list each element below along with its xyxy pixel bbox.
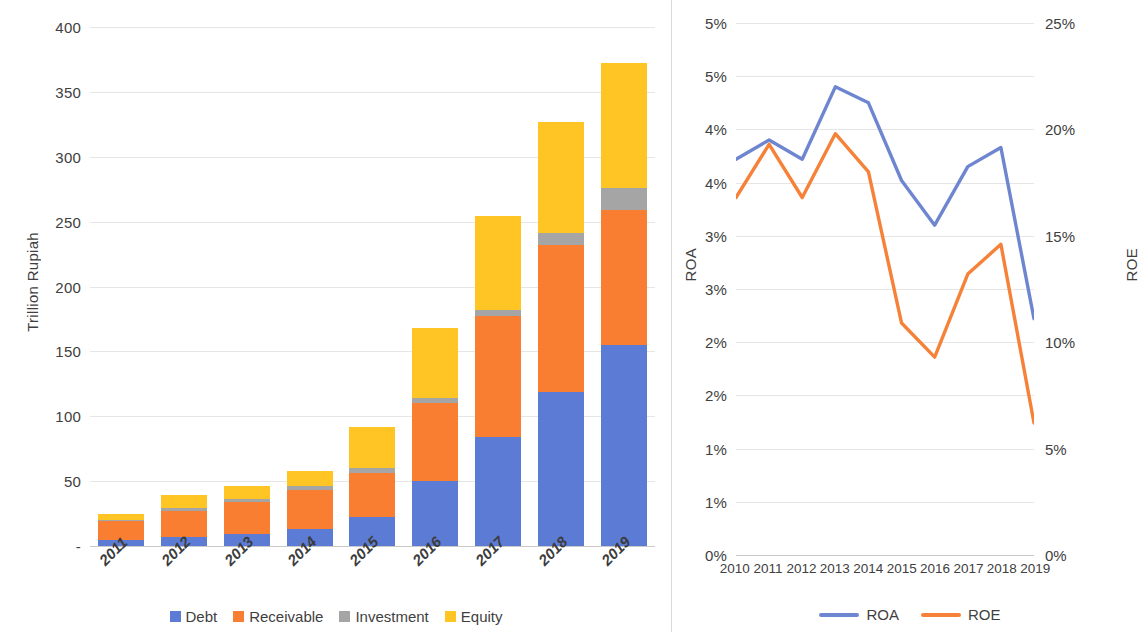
legend-item-investment[interactable]: Investment <box>339 608 428 625</box>
bar-segment-equity[interactable] <box>349 427 395 469</box>
roe-tick-label: 15% <box>1034 227 1075 244</box>
x-axis-label: 2019 <box>1019 561 1052 576</box>
roa-tick-label: 1% <box>705 440 736 457</box>
roe-axis-title: ROE <box>1123 248 1140 281</box>
y-axis-tick-label: 200 <box>55 278 90 295</box>
y-axis-tick-label: 100 <box>55 408 90 425</box>
x-axis-label: 2012 <box>785 561 818 576</box>
dual-chart-figure: Trillion Rupiah -50100150200250300350400… <box>0 0 1148 632</box>
bar-group[interactable] <box>98 27 144 546</box>
legend-label: ROE <box>968 606 1001 623</box>
y-axis-tick-label: 350 <box>55 83 90 100</box>
x-axis-label: 2014 <box>852 561 885 576</box>
bar-segment-debt[interactable] <box>475 437 521 546</box>
roe-tick-label: 5% <box>1034 440 1067 457</box>
roa-tick-label: 3% <box>705 281 736 298</box>
bar-plot-area: -50100150200250300350400 <box>90 27 655 546</box>
x-axis-label: 2010 <box>718 561 751 576</box>
legend-line-icon <box>921 613 961 617</box>
legend-item-roe[interactable]: ROE <box>921 606 1001 623</box>
bar-group[interactable] <box>287 27 333 546</box>
legend-label: Receivable <box>249 608 323 625</box>
bar-segment-receivable[interactable] <box>224 502 270 534</box>
x-axis-label: 2013 <box>818 561 851 576</box>
x-axis-label: 2015 <box>885 561 918 576</box>
line-plot-area: 0%1%1%2%2%3%3%4%4%5%5% 0%5%10%15%20%25% <box>736 23 1034 555</box>
roe-tick-label: 20% <box>1034 121 1075 138</box>
roa-tick-label: 5% <box>705 68 736 85</box>
bar-legend: DebtReceivableInvestmentEquity <box>0 608 672 625</box>
legend-swatch-icon <box>445 611 456 622</box>
legend-label: Equity <box>461 608 503 625</box>
legend-label: Debt <box>186 608 218 625</box>
bar-group[interactable] <box>224 27 270 546</box>
legend-swatch-icon <box>233 611 244 622</box>
y-axis-tick-label: 300 <box>55 148 90 165</box>
bar-segment-receivable[interactable] <box>412 403 458 481</box>
stacked-bar-chart-panel: Trillion Rupiah -50100150200250300350400… <box>0 0 672 632</box>
y-axis-tick-label: 50 <box>64 473 90 490</box>
line-series-roe[interactable] <box>736 134 1034 423</box>
bar-segment-investment[interactable] <box>538 233 584 245</box>
y-axis-tick-label: 150 <box>55 343 90 360</box>
bar-segment-equity[interactable] <box>601 63 647 188</box>
y-axis-tick-label: 250 <box>55 213 90 230</box>
roa-tick-label: 4% <box>705 121 736 138</box>
bar-segment-debt[interactable] <box>538 392 584 546</box>
roe-tick-label: 10% <box>1034 334 1075 351</box>
legend-label: Investment <box>355 608 428 625</box>
y-axis-tick-label: 400 <box>55 19 90 36</box>
roa-tick-label: 5% <box>705 15 736 32</box>
roa-axis-title: ROA <box>682 248 699 281</box>
bar-group[interactable] <box>349 27 395 546</box>
roa-tick-label: 4% <box>705 174 736 191</box>
line-series-svg <box>736 23 1034 555</box>
roa-tick-label: 1% <box>705 493 736 510</box>
legend-item-roa[interactable]: ROA <box>819 606 899 623</box>
bar-segment-equity[interactable] <box>224 486 270 499</box>
bar-segment-receivable[interactable] <box>538 245 584 392</box>
bar-segment-receivable[interactable] <box>349 473 395 517</box>
roa-tick-label: 2% <box>705 387 736 404</box>
bar-segment-equity[interactable] <box>161 495 207 508</box>
roa-tick-label: 3% <box>705 227 736 244</box>
legend-item-equity[interactable]: Equity <box>445 608 503 625</box>
bar-group[interactable] <box>475 27 521 546</box>
bar-segment-debt[interactable] <box>601 345 647 546</box>
x-axis-label: 2016 <box>918 561 951 576</box>
left-y-axis-title: Trillion Rupiah <box>24 232 41 332</box>
bar-segment-equity[interactable] <box>538 122 584 234</box>
legend-item-debt[interactable]: Debt <box>170 608 218 625</box>
line-series-roa[interactable] <box>736 87 1034 319</box>
roe-tick-label: 25% <box>1034 15 1075 32</box>
legend-line-icon <box>819 613 859 617</box>
bar-segment-equity[interactable] <box>412 328 458 398</box>
bar-segment-receivable[interactable] <box>475 316 521 437</box>
legend-label: ROA <box>866 606 899 623</box>
bar-segment-receivable[interactable] <box>287 490 333 529</box>
roa-tick-label: 2% <box>705 334 736 351</box>
bar-segment-receivable[interactable] <box>601 210 647 345</box>
y-axis-tick-label: - <box>76 538 90 555</box>
x-axis-label: 2018 <box>985 561 1018 576</box>
bar-segment-investment[interactable] <box>601 188 647 210</box>
legend-swatch-icon <box>170 611 181 622</box>
line-legend: ROAROE <box>672 606 1148 623</box>
bar-segment-equity[interactable] <box>287 471 333 487</box>
x-axis-label: 2011 <box>751 561 784 576</box>
bar-group[interactable] <box>161 27 207 546</box>
bar-segment-receivable[interactable] <box>161 511 207 537</box>
gridline <box>736 555 1034 556</box>
bar-group[interactable] <box>412 27 458 546</box>
legend-swatch-icon <box>339 611 350 622</box>
bar-series-container <box>90 27 655 546</box>
bar-group[interactable] <box>538 27 584 546</box>
line-x-axis-labels: 2010201120122013201420152016201720182019 <box>718 561 1052 576</box>
line-chart-panel: ROA ROE 0%1%1%2%2%3%3%4%4%5%5% 0%5%10%15… <box>672 0 1148 632</box>
x-axis-label: 2017 <box>952 561 985 576</box>
bar-group[interactable] <box>601 27 647 546</box>
legend-item-receivable[interactable]: Receivable <box>233 608 323 625</box>
bar-segment-equity[interactable] <box>475 216 521 309</box>
